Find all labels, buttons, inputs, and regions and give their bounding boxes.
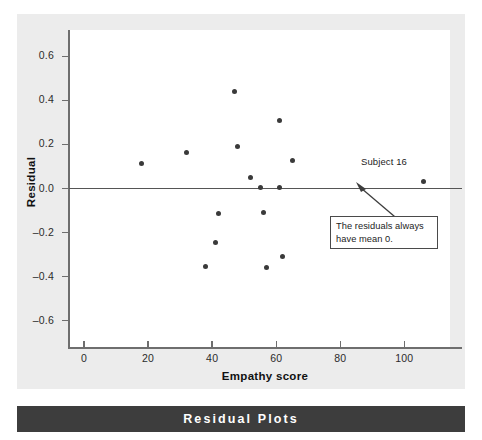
- caption-bar: Residual Plots: [17, 406, 465, 432]
- y-tick-label: –0.4: [20, 270, 54, 282]
- y-tick: [62, 320, 69, 321]
- x-tick-label: 20: [128, 352, 168, 364]
- x-tick: [340, 341, 341, 348]
- scatter-point: [139, 161, 144, 166]
- scatter-point: [277, 185, 282, 190]
- x-tick-label: 60: [256, 352, 296, 364]
- y-tick: [62, 100, 69, 101]
- y-tick-label: 0.4: [20, 93, 54, 105]
- x-tick: [211, 341, 212, 348]
- x-tick: [276, 341, 277, 348]
- y-tick-label: –0.2: [20, 226, 54, 238]
- y-tick: [62, 144, 69, 145]
- x-tick-label: 0: [64, 352, 104, 364]
- x-tick: [83, 341, 84, 348]
- callout-line-1: The residuals always: [336, 220, 433, 233]
- subject-16-label: Subject 16: [361, 156, 407, 167]
- y-tick-label: –0.6: [20, 314, 54, 326]
- x-tick-label: 40: [192, 352, 232, 364]
- scatter-point: [277, 118, 282, 123]
- y-tick: [62, 56, 69, 57]
- y-axis-title: Residual: [25, 137, 37, 227]
- x-tick: [404, 341, 405, 348]
- residual-plot-figure: 0.60.40.20.0–0.2–0.4–0.6 020406080100 Re…: [0, 0, 482, 440]
- callout-line-2: have mean 0.: [336, 233, 433, 246]
- scatter-point: [184, 150, 189, 155]
- y-tick: [62, 276, 69, 277]
- x-tick: [147, 341, 148, 348]
- scatter-point: [213, 240, 218, 245]
- y-tick-label: 0.6: [20, 49, 54, 61]
- x-tick-label: 100: [384, 352, 424, 364]
- x-axis-title: Empathy score: [68, 370, 462, 382]
- y-tick: [62, 188, 69, 189]
- scatter-point: [258, 185, 263, 190]
- y-tick: [62, 232, 69, 233]
- x-tick-label: 80: [320, 352, 360, 364]
- mean-zero-callout: The residuals always have mean 0.: [330, 216, 438, 249]
- caption-text: Residual Plots: [17, 406, 465, 432]
